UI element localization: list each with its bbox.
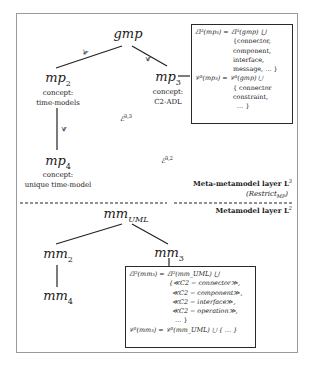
node-mm4-label: mm: [43, 288, 68, 303]
node-mm2-sub: 2: [68, 255, 73, 264]
concept-value: C2-ADL: [153, 97, 183, 107]
box-line: 𝒞³(mp₃) = 𝒞³(gmp) ⋃: [195, 74, 289, 83]
node-mm3-sub: 3: [179, 254, 184, 263]
box-line: message, … }: [195, 65, 289, 74]
node-mp4: mp4: [45, 153, 71, 171]
box-line: {≪C2 − connector≫,: [129, 279, 252, 288]
box-line: ℰl³(mp₃) = ℰl³(gmp) ⋃: [195, 28, 289, 37]
node-mp3-label: mp: [155, 69, 176, 84]
restrict-label: (RestrictMP): [246, 190, 288, 199]
node-mm-uml-label: mm: [104, 206, 129, 221]
box-line: ≪C2 − operation≫,: [129, 307, 252, 316]
node-mp4-concept: concept: unique time-model: [25, 170, 92, 190]
node-gmp-label: gmp: [114, 26, 143, 41]
layer-title-text: Metamodel layer L: [216, 206, 289, 215]
concept-value: time-models: [36, 98, 80, 108]
meta-layer-title: Meta-metamodel layer L3: [193, 178, 292, 188]
metamodel-definition-box: ℰl²(mm₃) = ℰl²(mm_UML) ⋃ {≪C2 − connecto…: [125, 266, 256, 348]
meta-definition-box: ℰl³(mp₃) = ℰl³(gmp) ⋃ {connector, compon…: [191, 24, 293, 124]
box-line: … }: [129, 316, 252, 325]
node-mp3-concept: concept: C2-ADL: [153, 87, 183, 107]
node-mm4-sub: 4: [68, 297, 73, 306]
restrict-close: ): [285, 190, 288, 198]
node-mp3-sub: 3: [176, 78, 181, 87]
node-gmp: gmp: [114, 26, 143, 41]
restrict-sub: MP: [277, 193, 285, 199]
box-line: 𝒞²(mm₃) = 𝒞²(mm_UML) ⋃ { … }: [129, 326, 252, 335]
layer-title-sup: 2: [289, 205, 292, 211]
node-mp2-concept: concept: time-models: [36, 88, 80, 108]
box-line: component,: [195, 47, 289, 56]
edge-label-sup: 3,3: [124, 113, 132, 119]
box-line: … }: [195, 102, 289, 111]
node-mm2-label: mm: [43, 246, 68, 261]
concept-label: concept:: [153, 87, 183, 97]
box-line: ≪C2 − component≫,: [129, 289, 252, 298]
node-mp2: mp2: [45, 70, 71, 88]
restrict-text: (Restrict: [246, 190, 277, 198]
box-line: interface,: [195, 56, 289, 65]
node-mp4-label: mp: [45, 153, 66, 168]
node-mp2-label: mp: [45, 70, 66, 85]
metamodel-layer-title: Metamodel layer L2: [216, 205, 292, 215]
edge-mmuml-mm3: [132, 224, 168, 244]
node-mm-uml: mmUML: [104, 206, 149, 224]
box-line: {connector,: [195, 37, 289, 46]
edge-label-sup: 3,2: [165, 155, 173, 161]
edge-order-symbol: ≼: [60, 126, 68, 132]
layer-title-text: Meta-metamodel layer L: [193, 179, 289, 188]
node-mm3-label: mm: [154, 245, 179, 260]
node-mm4: mm4: [43, 288, 73, 306]
node-mm-uml-sub: UML: [128, 215, 148, 224]
node-mm2: mm2: [43, 246, 73, 264]
edge-order-symbol: ≼: [144, 56, 152, 62]
box-line: constraint,: [195, 93, 289, 102]
node-mp2-sub: 2: [66, 79, 71, 88]
concept-label: concept:: [36, 88, 80, 98]
box-line: ℰl²(mm₃) = ℰl²(mm_UML) ⋃: [129, 270, 252, 279]
concept-label: concept:: [25, 170, 92, 180]
box-line: ≪C2 − interface≫,: [129, 298, 252, 307]
node-mm3: mm3: [154, 245, 184, 263]
edge-label-e32: ℰ3,2: [161, 155, 173, 165]
edge-mmuml-mm2: [56, 224, 122, 244]
node-mp3: mp3: [155, 69, 181, 87]
layer-title-sup: 3: [289, 178, 292, 184]
edge-label-e33: ℰ3,3: [120, 113, 132, 123]
box-line: { connector: [195, 84, 289, 93]
concept-value: unique time-model: [25, 180, 92, 190]
